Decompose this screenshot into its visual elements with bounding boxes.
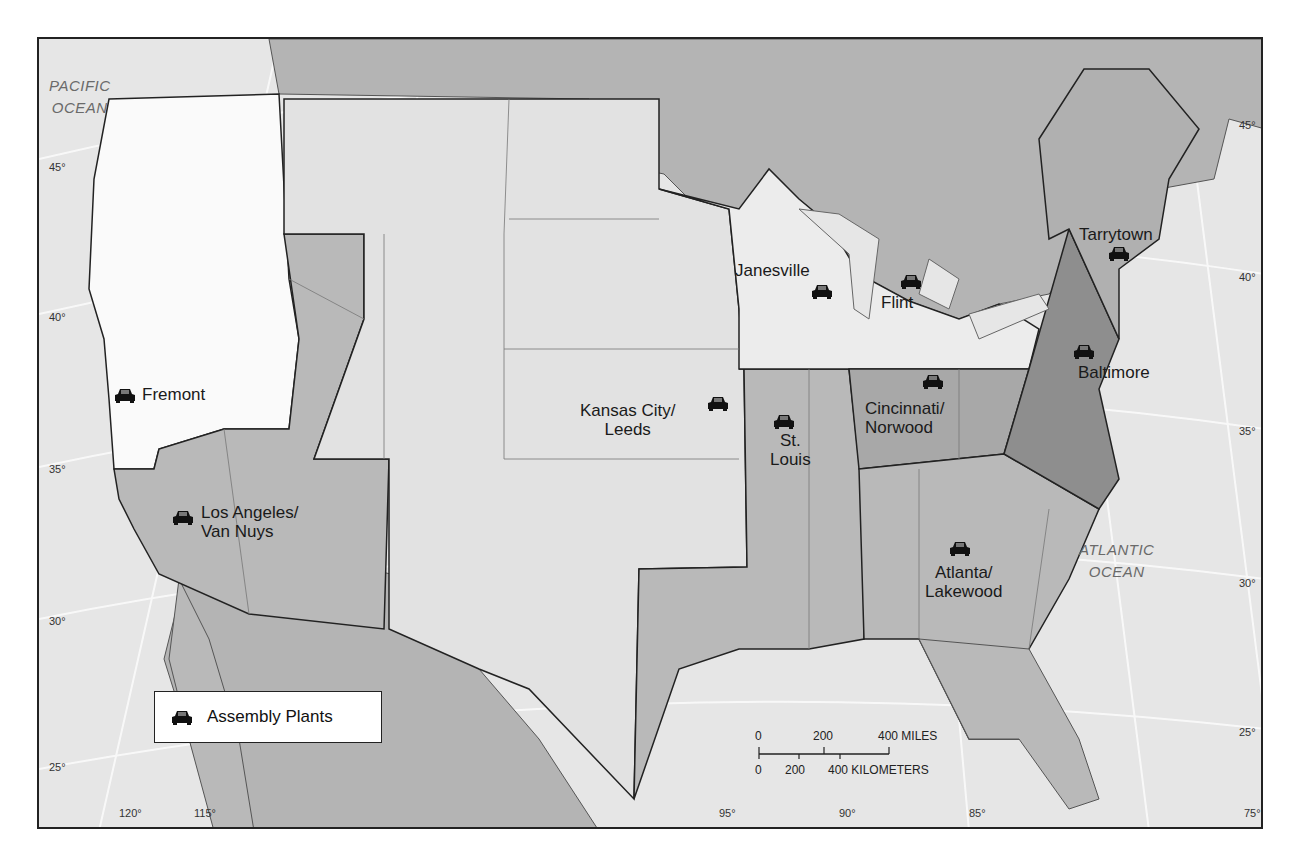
plant-label-flint: Flint [881,293,913,312]
plant-label-tarrytown: Tarrytown [1079,225,1153,244]
scale-miles-200: 200 [813,729,833,743]
plant-label-atlanta: Atlanta/ Lakewood [925,563,1003,601]
car-icon [172,509,194,525]
plant-label-fremont: Fremont [142,385,205,404]
scale-km-200: 200 [785,763,805,777]
lat-label-40: 40° [49,311,66,323]
plant-label-line: St. [770,431,811,450]
plant-label-st-louis: St. Louis [770,431,811,469]
legend-label: Assembly Plants [207,707,333,727]
car-icon [171,709,193,725]
plant-label-line: Cincinnati/ [865,399,944,418]
lat-label-45-right: 45° [1239,119,1256,131]
plant-label-line: Van Nuys [201,522,298,541]
car-icon [922,373,944,389]
plant-label-line: Lakewood [925,582,1003,601]
ocean-label-line: OCEAN [49,97,111,119]
lon-label-95: 95° [719,807,736,819]
atlantic-ocean-label: ATLANTIC OCEAN [1079,539,1154,583]
plant-label-line: Leeds [580,420,675,439]
plant-label-line: Louis [770,450,811,469]
scale-line [758,745,898,761]
plant-label-line: Atlanta/ [925,563,1003,582]
map-frame: PACIFIC OCEAN ATLANTIC OCEAN 45° 40° 35°… [37,37,1263,829]
scale-km-0: 0 [755,763,762,777]
car-icon [811,283,833,299]
lon-label-115: 115° [194,807,216,819]
lon-label-85: 85° [969,807,986,819]
lat-label-35-right: 35° [1239,425,1256,437]
scale-km-400: 400 KILOMETERS [828,763,929,777]
legend: Assembly Plants [154,691,382,743]
car-icon [949,540,971,556]
lat-label-45: 45° [49,161,66,173]
plant-label-line: Norwood [865,418,944,437]
lat-label-30: 30° [49,615,66,627]
plant-label-baltimore: Baltimore [1078,363,1150,382]
plant-label-cincinnati: Cincinnati/ Norwood [865,399,944,437]
plant-label-janesville: Janesville [735,261,810,280]
scale-bar: 0 200 400 MILES 0 200 400 KILOMETERS [755,729,975,789]
scale-miles-400: 400 MILES [878,729,937,743]
plant-label-line: Kansas City/ [580,401,675,420]
lat-label-35: 35° [49,463,66,475]
car-icon [900,273,922,289]
plant-label-los-angeles: Los Angeles/ Van Nuys [201,503,298,541]
car-icon [114,387,136,403]
pacific-ocean-label: PACIFIC OCEAN [49,75,111,119]
lon-label-75: 75° [1244,807,1261,819]
ocean-label-line: OCEAN [1079,561,1154,583]
lat-label-30-right: 30° [1239,577,1256,589]
lat-label-25-right: 25° [1239,726,1256,738]
lat-label-25: 25° [49,761,66,773]
car-icon [1108,245,1130,261]
ocean-label-line: PACIFIC [49,75,111,97]
lon-label-90: 90° [839,807,856,819]
ocean-label-line: ATLANTIC [1079,539,1154,561]
scale-miles-0: 0 [755,729,762,743]
car-icon [707,395,729,411]
car-icon [773,413,795,429]
lon-label-120: 120° [119,807,142,819]
lat-label-40-right: 40° [1239,271,1256,283]
plant-label-kansas-city: Kansas City/ Leeds [580,401,675,439]
plant-label-line: Los Angeles/ [201,503,298,522]
car-icon [1073,343,1095,359]
